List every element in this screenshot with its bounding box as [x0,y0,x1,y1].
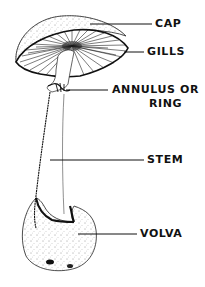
label-cap: CAP [155,18,181,30]
label-gills: GILLS [147,46,185,58]
label-ring: RING [149,98,182,110]
label-stem: STEM [147,154,183,166]
mushroom-illustration [0,0,205,287]
label-volva: VOLVA [140,228,182,240]
label-annulus: ANNULUS OR [112,84,199,96]
